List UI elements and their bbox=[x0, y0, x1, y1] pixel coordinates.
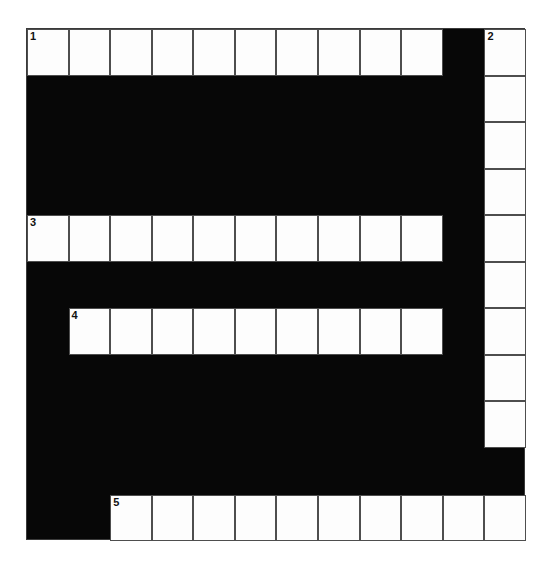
crossword-cell-r0-c0[interactable]: 1 bbox=[27, 29, 69, 76]
cell-letter bbox=[70, 30, 110, 75]
crossword-cell-r10-c9[interactable] bbox=[401, 495, 443, 542]
clue-number-2: 2 bbox=[487, 30, 493, 43]
crossword-board: 12345 bbox=[26, 28, 525, 540]
crossword-cell-r10-c11[interactable] bbox=[484, 495, 526, 542]
crossword-cell-r0-c3[interactable] bbox=[152, 29, 194, 76]
cell-letter bbox=[277, 216, 317, 261]
crossword-cell-r7-c11[interactable] bbox=[484, 355, 526, 402]
cell-letter bbox=[485, 77, 525, 122]
crossword-cell-r6-c2[interactable] bbox=[110, 308, 152, 355]
crossword-cell-r0-c7[interactable] bbox=[318, 29, 360, 76]
cell-letter bbox=[319, 496, 359, 541]
cell-letter bbox=[111, 30, 151, 75]
cell-letter bbox=[485, 123, 525, 168]
crossword-cell-r6-c9[interactable] bbox=[401, 308, 443, 355]
crossword-cell-r4-c4[interactable] bbox=[193, 215, 235, 262]
cell-letter bbox=[319, 216, 359, 261]
crossword-cell-r0-c6[interactable] bbox=[276, 29, 318, 76]
cell-letter bbox=[277, 496, 317, 541]
crossword-cell-r0-c11[interactable]: 2 bbox=[484, 29, 526, 76]
crossword-cell-r2-c11[interactable] bbox=[484, 122, 526, 169]
cell-letter bbox=[361, 30, 401, 75]
cell-letter bbox=[402, 216, 442, 261]
cell-letter bbox=[485, 496, 525, 541]
clue-number-5: 5 bbox=[113, 496, 119, 509]
cell-letter bbox=[153, 30, 193, 75]
crossword-cell-r6-c4[interactable] bbox=[193, 308, 235, 355]
crossword-cell-r6-c5[interactable] bbox=[235, 308, 277, 355]
cell-letter bbox=[485, 309, 525, 354]
crossword-cell-r8-c11[interactable] bbox=[484, 401, 526, 448]
crossword-cell-r10-c4[interactable] bbox=[193, 495, 235, 542]
crossword-cell-r10-c6[interactable] bbox=[276, 495, 318, 542]
crossword-cell-r0-c2[interactable] bbox=[110, 29, 152, 76]
cell-letter bbox=[319, 309, 359, 354]
cell-letter bbox=[402, 30, 442, 75]
crossword-cell-r4-c1[interactable] bbox=[69, 215, 111, 262]
cell-letter bbox=[236, 309, 276, 354]
cell-letter bbox=[236, 496, 276, 541]
cell-letter bbox=[277, 30, 317, 75]
crossword-cell-r0-c5[interactable] bbox=[235, 29, 277, 76]
crossword-cell-layer: 12345 bbox=[27, 29, 524, 539]
crossword-cell-r4-c3[interactable] bbox=[152, 215, 194, 262]
cell-letter bbox=[194, 309, 234, 354]
cell-letter bbox=[485, 263, 525, 308]
crossword-cell-r10-c7[interactable] bbox=[318, 495, 360, 542]
cell-letter bbox=[194, 30, 234, 75]
cell-letter bbox=[70, 216, 110, 261]
crossword-cell-r6-c7[interactable] bbox=[318, 308, 360, 355]
cell-letter bbox=[236, 30, 276, 75]
clue-number-1: 1 bbox=[30, 30, 36, 43]
cell-letter bbox=[402, 496, 442, 541]
cell-letter bbox=[485, 402, 525, 447]
cell-letter bbox=[111, 309, 151, 354]
cell-letter bbox=[111, 216, 151, 261]
crossword-cell-r0-c9[interactable] bbox=[401, 29, 443, 76]
cell-letter bbox=[194, 496, 234, 541]
crossword-cell-r4-c9[interactable] bbox=[401, 215, 443, 262]
cell-letter bbox=[194, 216, 234, 261]
crossword-cell-r4-c2[interactable] bbox=[110, 215, 152, 262]
cell-letter bbox=[153, 309, 193, 354]
crossword-cell-r6-c8[interactable] bbox=[360, 308, 402, 355]
crossword-cell-r1-c11[interactable] bbox=[484, 76, 526, 123]
crossword-cell-r6-c6[interactable] bbox=[276, 308, 318, 355]
cell-letter bbox=[277, 309, 317, 354]
crossword-cell-r10-c10[interactable] bbox=[443, 495, 485, 542]
cell-letter bbox=[361, 216, 401, 261]
crossword-cell-r4-c11[interactable] bbox=[484, 215, 526, 262]
crossword-cell-r4-c6[interactable] bbox=[276, 215, 318, 262]
crossword-cell-r10-c2[interactable]: 5 bbox=[110, 495, 152, 542]
crossword-puzzle: 12345 bbox=[0, 0, 558, 572]
crossword-cell-r4-c8[interactable] bbox=[360, 215, 402, 262]
clue-number-4: 4 bbox=[72, 309, 78, 322]
cell-letter bbox=[444, 496, 484, 541]
cell-letter bbox=[485, 216, 525, 261]
clue-number-3: 3 bbox=[30, 216, 36, 229]
crossword-cell-r10-c3[interactable] bbox=[152, 495, 194, 542]
cell-letter bbox=[236, 216, 276, 261]
crossword-cell-r0-c4[interactable] bbox=[193, 29, 235, 76]
crossword-cell-r0-c1[interactable] bbox=[69, 29, 111, 76]
crossword-cell-r4-c5[interactable] bbox=[235, 215, 277, 262]
cell-letter bbox=[361, 309, 401, 354]
cell-letter bbox=[485, 170, 525, 215]
crossword-cell-r4-c7[interactable] bbox=[318, 215, 360, 262]
cell-letter bbox=[153, 216, 193, 261]
crossword-cell-r4-c0[interactable]: 3 bbox=[27, 215, 69, 262]
crossword-cell-r6-c3[interactable] bbox=[152, 308, 194, 355]
crossword-cell-r10-c5[interactable] bbox=[235, 495, 277, 542]
crossword-cell-r5-c11[interactable] bbox=[484, 262, 526, 309]
cell-letter bbox=[402, 309, 442, 354]
crossword-cell-r3-c11[interactable] bbox=[484, 169, 526, 216]
cell-letter bbox=[153, 496, 193, 541]
cell-letter bbox=[319, 30, 359, 75]
crossword-cell-r0-c8[interactable] bbox=[360, 29, 402, 76]
cell-letter bbox=[485, 356, 525, 401]
crossword-cell-r10-c8[interactable] bbox=[360, 495, 402, 542]
crossword-cell-r6-c11[interactable] bbox=[484, 308, 526, 355]
cell-letter bbox=[361, 496, 401, 541]
crossword-cell-r6-c1[interactable]: 4 bbox=[69, 308, 111, 355]
